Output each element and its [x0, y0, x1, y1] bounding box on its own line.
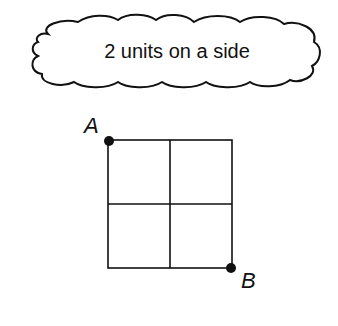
point-a-dot [104, 136, 114, 146]
point-a: A [82, 113, 114, 146]
point-a-label: A [82, 113, 99, 138]
point-b: B [226, 263, 256, 293]
cloud-callout: 2 units on a side [32, 15, 320, 88]
diagram-canvas: 2 units on a side A B [0, 0, 338, 326]
callout-text: 2 units on a side [104, 40, 250, 62]
point-b-dot [226, 263, 236, 273]
square-grid [108, 140, 232, 268]
point-b-label: B [241, 268, 256, 293]
